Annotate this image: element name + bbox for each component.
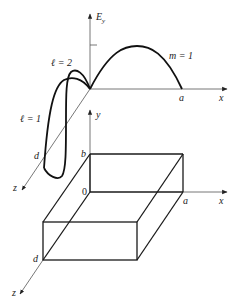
z-axis-top <box>22 89 90 190</box>
m1-label: m = 1 <box>169 50 193 61</box>
front-face <box>43 222 137 260</box>
cavity-box: y b 0 a x d z <box>11 109 227 298</box>
field-plot: Ey m = 1 ℓ = 2 ℓ = 1 a x d z <box>12 11 227 193</box>
top-d-label: d <box>34 150 40 161</box>
l2-label: ℓ = 2 <box>51 57 72 68</box>
bottom-z-label: z <box>11 287 16 298</box>
bottom-d-label: d <box>33 253 39 264</box>
l1-label: ℓ = 1 <box>20 113 41 124</box>
top-a-label: a <box>179 92 184 103</box>
l2-mode-curve <box>44 71 90 178</box>
z-axis-bottom <box>20 260 43 294</box>
y-axis-label: y <box>95 109 101 120</box>
origin-label: 0 <box>82 186 87 197</box>
top-z-label: z <box>12 182 17 193</box>
bottom-a-label: a <box>183 195 188 206</box>
ey-axis-label: Ey <box>95 11 106 25</box>
top-x-label: x <box>218 92 224 103</box>
b-label: b <box>81 148 86 159</box>
bottom-x-label: x <box>218 195 224 206</box>
waveguide-cavity-diagram: Ey m = 1 ℓ = 2 ℓ = 1 a x d z y b 0 a x d <box>0 0 242 308</box>
